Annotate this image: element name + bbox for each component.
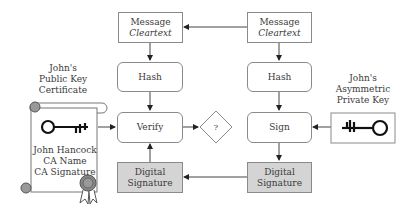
decision-label: ? bbox=[206, 122, 226, 133]
connector-lines bbox=[0, 0, 416, 216]
cleartext-label: Cleartext bbox=[258, 28, 300, 39]
message-label: Message bbox=[259, 17, 299, 28]
sign-label: Sign bbox=[269, 122, 290, 133]
holder-name: John Hancock bbox=[30, 145, 100, 156]
digital-label: Digital bbox=[264, 167, 295, 178]
title-line: John's bbox=[28, 63, 98, 74]
digital-label: Digital bbox=[135, 167, 166, 178]
signature-label: Signature bbox=[257, 178, 302, 189]
left-message-box: Message Cleartext bbox=[118, 12, 183, 43]
signature-label: Signature bbox=[127, 178, 172, 189]
title-line: Private Key bbox=[330, 95, 396, 106]
certificate-body: John Hancock CA Name CA Signature bbox=[30, 145, 100, 178]
ca-name: CA Name bbox=[30, 156, 100, 167]
title-line: John's bbox=[330, 73, 396, 84]
title-line: Public Key bbox=[28, 74, 98, 85]
title-line: Asymmetric bbox=[330, 84, 396, 95]
hash-label: Hash bbox=[138, 72, 162, 83]
hash-label: Hash bbox=[268, 72, 292, 83]
left-hash-box: Hash bbox=[117, 62, 183, 92]
verify-label: Verify bbox=[137, 122, 164, 133]
message-label: Message bbox=[130, 17, 170, 28]
left-digital-signature-box: Digital Signature bbox=[117, 162, 183, 193]
right-digital-signature-box: Digital Signature bbox=[247, 162, 312, 193]
right-message-box: Message Cleartext bbox=[247, 12, 312, 43]
certificate-title: John's Public Key Certificate bbox=[28, 63, 98, 96]
cleartext-label: Cleartext bbox=[129, 28, 171, 39]
right-hash-box: Hash bbox=[247, 62, 312, 92]
private-key-title: John's Asymmetric Private Key bbox=[330, 73, 396, 106]
title-line: Certificate bbox=[28, 85, 98, 96]
verify-box: Verify bbox=[117, 112, 183, 143]
sign-box: Sign bbox=[247, 112, 312, 143]
ca-signature: CA Signature bbox=[30, 167, 100, 178]
